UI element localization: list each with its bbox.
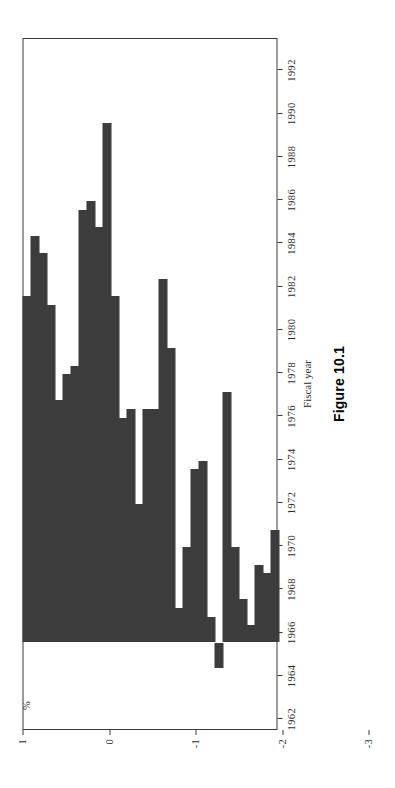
category-axis-tick <box>277 718 282 719</box>
category-axis-tick <box>277 156 282 157</box>
category-axis-tick-label: 1972 <box>285 492 296 515</box>
value-axis-tick <box>368 730 369 735</box>
bar-series <box>23 39 276 729</box>
category-axis-tick-label: 1978 <box>285 362 296 385</box>
category-axis-tick-label: 1986 <box>285 189 296 212</box>
category-axis-tick <box>277 113 282 114</box>
value-axis-tick <box>22 730 23 735</box>
category-axis-tick <box>277 242 282 243</box>
category-axis-tick <box>277 545 282 546</box>
value-axis-tick-label: -3 <box>363 739 374 748</box>
category-axis-tick <box>277 286 282 287</box>
category-axis-tick <box>277 588 282 589</box>
value-axis-tick-label: 0 <box>103 739 114 745</box>
bar <box>22 297 31 643</box>
category-axis-tick-label: 1970 <box>285 535 296 558</box>
category-axis-tick <box>277 69 282 70</box>
category-axis-tick <box>277 459 282 460</box>
category-axis-tick-label: 1968 <box>285 578 296 601</box>
bar <box>214 643 223 669</box>
bar <box>222 392 231 643</box>
figure-caption: Figure 10.1 <box>330 38 346 730</box>
category-axis-tick <box>277 502 282 503</box>
category-axis-tick-label: 1976 <box>285 405 296 428</box>
value-axis-tick-label: 1 <box>17 739 28 745</box>
plot-area <box>22 38 277 730</box>
category-axis-tick-label: 1984 <box>285 232 296 255</box>
category-axis-tick-label: 1982 <box>285 275 296 298</box>
category-axis-tick <box>277 415 282 416</box>
category-axis-tick-label: 1992 <box>285 59 296 82</box>
category-axis-tick-label: 1980 <box>285 319 296 342</box>
category-axis-tick-label: 1974 <box>285 448 296 471</box>
category-axis-tick-label: 1962 <box>285 708 296 731</box>
category-axis-tick-label: 1964 <box>285 665 296 688</box>
figure-10-1: % 10-1-2-3-4-5-6-7 196219641966196819701… <box>0 0 395 788</box>
category-axis-tick <box>277 372 282 373</box>
category-axis-tick <box>277 632 282 633</box>
value-axis-tick <box>109 730 110 735</box>
value-axis-tick-label: -1 <box>190 739 201 748</box>
category-axis-tick <box>277 675 282 676</box>
category-axis-tick-label: 1988 <box>285 146 296 169</box>
value-axis-tick-label: -2 <box>276 739 287 748</box>
category-axis-tick-label: 1990 <box>285 102 296 125</box>
category-axis-tick-label: 1966 <box>285 621 296 644</box>
value-axis-title: % <box>21 701 32 710</box>
value-axis-tick <box>282 730 283 735</box>
category-axis-tick <box>277 329 282 330</box>
category-axis-tick <box>277 199 282 200</box>
figure-rotation-wrapper: % 10-1-2-3-4-5-6-7 196219641966196819701… <box>0 0 395 788</box>
category-axis-title: Fiscal year <box>300 38 312 730</box>
value-axis-tick <box>195 730 196 735</box>
